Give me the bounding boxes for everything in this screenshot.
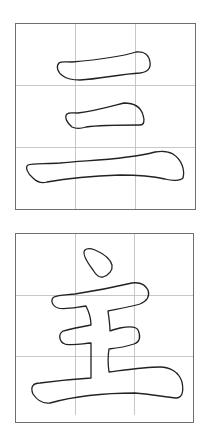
stroke-outline-san-2 [66, 103, 144, 129]
stroke-outline-zhu-dot [84, 249, 112, 278]
guide-grid-zhu [16, 234, 193, 415]
stroke-outline-san-3 [27, 151, 184, 182]
stroke-outline-san-1 [57, 52, 150, 80]
guide-grid-san [16, 24, 195, 209]
stroke-outline-zhu-body [32, 283, 183, 403]
